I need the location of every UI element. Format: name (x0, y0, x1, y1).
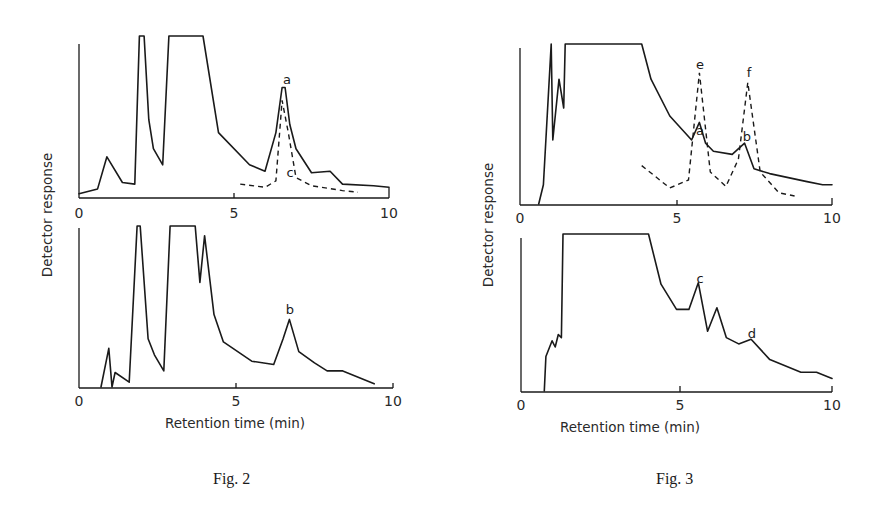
x-tick-label: 5 (676, 397, 685, 413)
x-tick-label: 10 (823, 397, 841, 413)
peak-label-b: b (286, 302, 294, 317)
x-axis-label: Retention time (min) (560, 419, 700, 435)
peak-label-a: a (696, 123, 704, 138)
x-tick-label: 5 (232, 393, 241, 409)
chromatogram-figures: 0 5 10 a c 0 5 10 b Retention time (min)… (0, 0, 880, 507)
peak-label-c: c (696, 271, 703, 286)
peak-label-a: a (283, 72, 291, 87)
figure-caption: Fig. 2 (213, 470, 250, 488)
solid-trace (539, 44, 832, 204)
peak-label-d: d (748, 326, 756, 341)
x-tick-label: 5 (673, 210, 682, 226)
x-tick-label: 10 (384, 393, 402, 409)
x-axis-label: Retention time (min) (165, 415, 305, 431)
x-tick-label: 10 (823, 210, 841, 226)
dashed-trace (240, 100, 358, 192)
y-axis-label: Detector response (39, 153, 55, 277)
peak-label-b: b (743, 129, 751, 144)
peak-label-e: e (696, 57, 704, 72)
x-tick-label: 0 (75, 205, 84, 221)
peak-label-f: f (747, 65, 752, 80)
figure-3: 0 5 10 a b e f 0 5 10 c d Retention time… (480, 44, 841, 488)
x-tick-label: 0 (516, 210, 525, 226)
figure-caption: Fig. 3 (656, 470, 693, 488)
solid-trace (101, 226, 374, 387)
dashed-trace (642, 73, 795, 196)
fig2-bottom-panel: 0 5 10 b Retention time (min) (75, 226, 402, 431)
fig2-top-panel: 0 5 10 a c (75, 36, 398, 221)
y-axis-label: Detector response (480, 163, 496, 287)
x-tick-label: 0 (75, 393, 84, 409)
fig3-bottom-panel: 0 5 10 c d Retention time (min) (517, 234, 841, 435)
peak-label-c: c (286, 165, 293, 180)
figure-2: 0 5 10 a c 0 5 10 b Retention time (min)… (39, 36, 402, 488)
x-tick-label: 0 (517, 397, 526, 413)
x-tick-label: 10 (380, 205, 398, 221)
solid-trace (79, 36, 389, 194)
fig3-top-panel: 0 5 10 a b e f (516, 44, 841, 226)
x-tick-label: 5 (230, 205, 239, 221)
solid-trace (544, 234, 832, 391)
